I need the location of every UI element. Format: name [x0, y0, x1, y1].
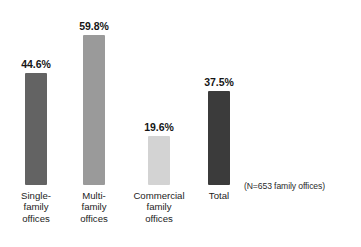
bar-rect-total	[208, 91, 230, 185]
category-line-3: offices	[128, 213, 190, 224]
category-line-1: Total	[188, 190, 250, 201]
bar-rect-multi-family-offices	[83, 35, 105, 185]
sample-size-note: (N=653 family offices)	[244, 181, 325, 191]
bar-group-single-family-offices: 44.6% Single- family offices	[7, 0, 65, 247]
bar-value-label: 19.6%	[130, 121, 188, 133]
bar-group-multi-family-offices: 59.8% Multi- family offices	[65, 0, 123, 247]
bar-category-label-single-family-offices: Single- family offices	[5, 190, 67, 224]
category-line-3: offices	[63, 213, 125, 224]
bar-category-label-multi-family-offices: Multi- family offices	[63, 190, 125, 224]
bar-value-label: 59.8%	[65, 20, 123, 32]
category-line-1: Single-	[5, 190, 67, 201]
bar-value-label: 37.5%	[190, 76, 248, 88]
bar-category-label-total: Total	[188, 190, 250, 201]
category-line-2: family	[63, 201, 125, 212]
bar-rect-single-family-offices	[25, 73, 47, 185]
category-line-1: Commercial	[128, 190, 190, 201]
category-line-1: Multi-	[63, 190, 125, 201]
bar-chart: 44.6% Single- family offices 59.8% Multi…	[0, 0, 361, 247]
bar-group-commercial-family-offices: 19.6% Commercial family offices	[130, 0, 188, 247]
bar-category-label-commercial-family-offices: Commercial family offices	[128, 190, 190, 224]
category-line-2: family	[5, 201, 67, 212]
bar-rect-commercial-family-offices	[148, 136, 170, 185]
plot-area: 44.6% Single- family offices 59.8% Multi…	[0, 0, 361, 247]
bar-value-label: 44.6%	[7, 58, 65, 70]
bar-group-total: 37.5% Total	[190, 0, 248, 247]
category-line-3: offices	[5, 213, 67, 224]
category-line-2: family	[128, 201, 190, 212]
